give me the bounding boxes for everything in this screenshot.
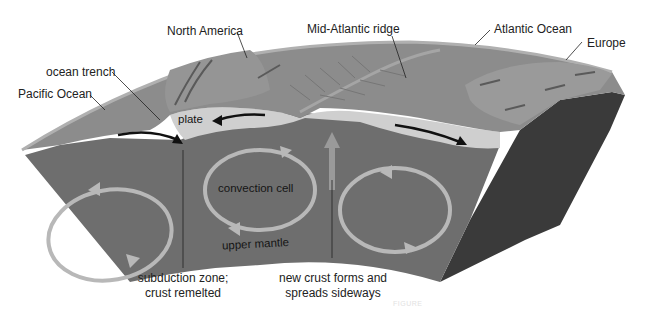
label-subduction-zone: subduction zone; <box>138 271 229 285</box>
label-plate: plate <box>178 113 203 125</box>
label-new-crust-forms: new crust forms and <box>279 271 387 285</box>
label-pacific-ocean: Pacific Ocean <box>18 87 92 101</box>
label-europe: Europe <box>587 36 626 50</box>
faded-caption: FIGURE <box>393 300 422 307</box>
tectonics-diagram: North America Mid-Atlantic ridge Atlanti… <box>0 0 645 309</box>
label-convection-cell: convection cell <box>218 182 293 194</box>
label-crust-remelted: crust remelted <box>145 286 221 300</box>
label-ocean-trench: ocean trench <box>46 65 115 79</box>
label-atlantic-ocean: Atlantic Ocean <box>494 22 572 36</box>
label-spreads-sideways: spreads sideways <box>285 286 380 300</box>
label-mid-atlantic-ridge: Mid-Atlantic ridge <box>307 22 400 36</box>
label-north-america: North America <box>167 24 243 38</box>
